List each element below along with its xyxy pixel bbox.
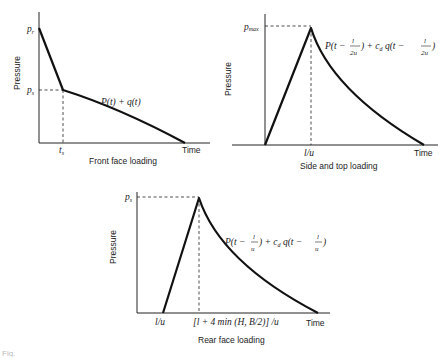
- panel-side-top: pmax l/u P(t − l 2u ) + cd q(t − l 2u ) …: [223, 14, 438, 171]
- svg-text:) + cd q(t −: ) + cd q(t −: [360, 41, 404, 52]
- panel-front-face: pr ps ts P(t) + q(t) Time Pressure Front…: [12, 12, 210, 166]
- svg-text:) + cd q(t −: ) + cd q(t −: [258, 237, 302, 248]
- x-mark-rear-peak-time: [l + 4 min (H, B/2)] /u: [193, 317, 279, 328]
- panel-caption: Side and top loading: [300, 161, 378, 171]
- x-axis-label: Time: [414, 148, 433, 158]
- svg-text:l: l: [352, 37, 354, 45]
- svg-text:u: u: [251, 245, 255, 253]
- curve-label: P(t) + q(t): [100, 97, 141, 108]
- curve-label: P(t − l 2u ) + cd q(t − l 2u ): [324, 37, 435, 57]
- y-mark-pr: pr: [26, 24, 35, 35]
- panel-caption: Front face loading: [89, 156, 157, 166]
- x-mark-lu: l/u: [304, 148, 314, 158]
- svg-text:2u: 2u: [421, 49, 429, 57]
- y-mark-ps: ps: [26, 85, 35, 96]
- svg-text:): ): [431, 41, 435, 52]
- panel-rear-face: ps l/u [l + 4 min (H, B/2)] /u P(t − l u…: [108, 192, 330, 345]
- svg-text:P(t −: P(t −: [224, 237, 245, 248]
- x-mark-ts: ts: [59, 145, 65, 156]
- y-mark-pmax: pmax: [243, 22, 259, 32]
- y-axis-label: Pressure: [12, 56, 22, 90]
- x-axis-label: Time: [306, 318, 325, 328]
- figure-label-fragment: Fig.: [2, 349, 15, 357]
- svg-text:l: l: [317, 233, 319, 241]
- pressure-curve: [163, 198, 318, 313]
- figure-canvas: pr ps ts P(t) + q(t) Time Pressure Front…: [0, 0, 447, 357]
- curve-label: P(t − l u ) + cd q(t − l u ): [224, 233, 326, 253]
- svg-text:P(t −: P(t −: [324, 41, 345, 52]
- panel-caption: Rear face loading: [198, 335, 265, 345]
- x-mark-lu: l/u: [155, 317, 165, 327]
- svg-text:): ): [322, 237, 326, 248]
- y-axis-label: Pressure: [108, 230, 118, 264]
- svg-text:2u: 2u: [350, 49, 358, 57]
- pressure-curve: [39, 28, 185, 143]
- y-mark-ps: ps: [124, 192, 133, 203]
- svg-text:l: l: [253, 233, 255, 241]
- svg-text:u: u: [315, 245, 319, 253]
- y-axis-label: Pressure: [223, 62, 233, 96]
- svg-text:l: l: [424, 37, 426, 45]
- x-axis-label: Time: [182, 145, 201, 155]
